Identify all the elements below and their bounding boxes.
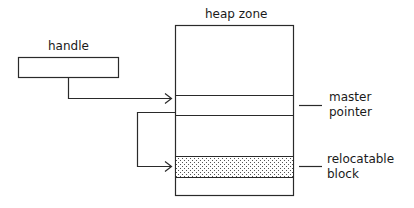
handle-to-master-pointer-connector [69,78,172,99]
master-pointer-label-line1: master [329,90,371,104]
handle-label: handle [48,39,89,53]
master-pointer-to-block-connector [138,113,176,167]
relocatable-block-label-line2: block [327,167,359,181]
relocatable-block-label-line1: relocatable [327,152,394,166]
master-pointer-label-line2: pointer [329,105,372,119]
handle-box [19,58,119,78]
relocatable-block [176,157,293,178]
heap-zone-title: heap zone [205,7,267,21]
